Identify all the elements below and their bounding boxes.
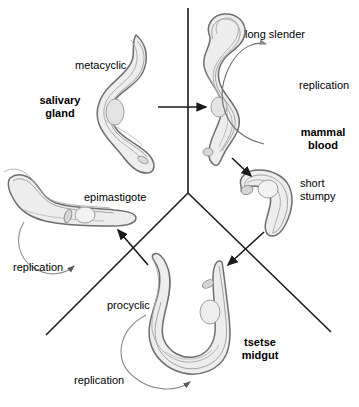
- process-label-replication-epimastigote: replication: [13, 261, 63, 274]
- stage-label-metacyclic: metacyclic: [75, 59, 126, 72]
- process-label-replication-blood: replication: [299, 79, 349, 92]
- short-stumpy-nucleus: [258, 180, 278, 198]
- metacyclic-nucleus: [106, 99, 124, 125]
- metacyclic-body: [97, 35, 154, 173]
- stage-label-long-slender: long slender: [245, 28, 305, 41]
- epimastigote-nucleus: [75, 207, 95, 223]
- life-cycle-illustration: [0, 0, 359, 407]
- arrow-procyclic-to-epimastigote: [118, 230, 148, 265]
- process-label-replication-procyclic: replication: [74, 374, 124, 387]
- compartment-label-tsetse-midgut: tsetse midgut: [232, 336, 288, 361]
- stage-label-epimastigote: epimastigote: [84, 191, 146, 204]
- stage-label-procyclic: procyclic: [107, 299, 150, 312]
- long-slender-cell: [203, 14, 245, 166]
- long-slender-body: [204, 14, 245, 166]
- compartment-divider: [46, 8, 331, 335]
- trypanosome-life-cycle-diagram: salivary gland metacyclic long slender r…: [0, 0, 359, 407]
- compartment-label-salivary-gland: salivary gland: [30, 94, 90, 119]
- compartment-label-mammal-blood: mammal blood: [290, 126, 356, 151]
- short-stumpy-cell: [240, 170, 292, 236]
- arrow-long-slender-to-short-stumpy: [232, 158, 251, 176]
- procyclic-cell: [149, 254, 230, 374]
- long-slender-nucleus: [211, 97, 227, 117]
- long-slender-kinetoplast: [203, 148, 213, 156]
- metacyclic-cell: [97, 35, 154, 173]
- procyclic-nucleus: [200, 300, 220, 324]
- stage-label-short-stumpy: short stumpy: [300, 177, 335, 202]
